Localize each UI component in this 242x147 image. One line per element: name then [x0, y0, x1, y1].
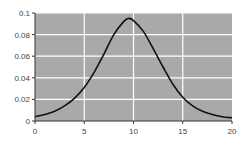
y-tick-label: 0.06	[14, 52, 30, 61]
x-axis-ticks: 05101520	[33, 121, 237, 136]
x-tick-label: 10	[129, 127, 138, 136]
y-axis-ticks: 00.020.040.060.080.1	[14, 9, 35, 126]
y-tick-label: 0.04	[14, 74, 30, 83]
x-tick-label: 20	[228, 127, 237, 136]
x-tick-label: 5	[82, 127, 87, 136]
y-tick-label: 0.1	[19, 9, 31, 18]
y-tick-label: 0	[26, 117, 31, 126]
line-chart: 00.020.040.060.080.1 05101520	[0, 0, 242, 147]
y-tick-label: 0.08	[14, 31, 30, 40]
x-tick-label: 0	[33, 127, 38, 136]
x-tick-label: 15	[178, 127, 187, 136]
y-tick-label: 0.02	[14, 95, 30, 104]
